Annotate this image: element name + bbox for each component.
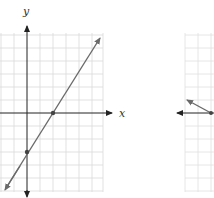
graphs-canvas: y x <box>0 0 214 198</box>
y-intercept-point <box>25 150 29 154</box>
right-graph-line <box>187 100 211 113</box>
right-point <box>209 111 213 115</box>
right-graph <box>177 33 214 192</box>
x-axis-label: x <box>119 107 126 120</box>
left-graph: y x <box>0 5 126 197</box>
x-intercept-point <box>51 111 55 115</box>
y-axis-label: y <box>22 5 30 18</box>
